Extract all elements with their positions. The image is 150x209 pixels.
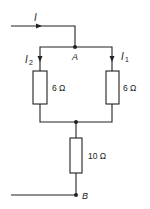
- input-wire: [11, 26, 75, 47]
- current-i-label: I: [34, 12, 37, 23]
- current-i1-label: I: [121, 51, 124, 62]
- node-b-dot: [74, 193, 78, 197]
- resistor-right-value: 6 Ω: [123, 83, 136, 93]
- circuit-diagram: I A I 2 I 1 6 Ω 6 Ω 10 Ω B: [0, 0, 150, 209]
- resistor-left-value: 6 Ω: [52, 83, 65, 93]
- resistor-series: [70, 138, 82, 173]
- current-i2-subscript: 2: [29, 59, 33, 66]
- current-arrow-icon: [36, 24, 42, 29]
- node-b-label: B: [82, 191, 88, 201]
- current-arrow-right-icon: [110, 56, 115, 62]
- current-i1-subscript: 1: [125, 56, 129, 63]
- bottom-bus-wire: [40, 104, 112, 122]
- resistor-series-value: 10 Ω: [88, 151, 106, 161]
- current-arrow-left-icon: [38, 56, 43, 62]
- node-a-dot: [73, 45, 77, 49]
- current-i2-label: I: [25, 54, 28, 65]
- resistor-right: [106, 71, 119, 104]
- node-junction-dot: [74, 120, 78, 124]
- resistor-left: [33, 71, 47, 104]
- node-a-label: A: [71, 52, 78, 62]
